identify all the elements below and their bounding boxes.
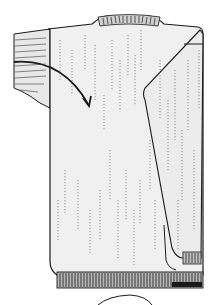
- neck-ribbing: [98, 15, 160, 27]
- hem-ribbing: [57, 272, 203, 288]
- sweater-illustration: [0, 0, 216, 305]
- sleeve-cuff: [183, 252, 201, 264]
- next-piece-edge: [98, 295, 152, 305]
- left-sleeve: [14, 29, 50, 108]
